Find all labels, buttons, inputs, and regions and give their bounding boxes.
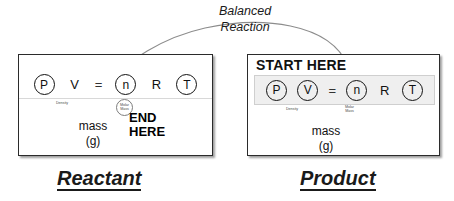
reactant-symbol-p: P xyxy=(34,74,55,95)
balanced-reaction-label-line1: Balanced xyxy=(219,4,271,20)
product-symbol-r: R xyxy=(378,84,392,97)
product-symbol-p: P xyxy=(266,80,287,101)
reactant-symbol-r: R xyxy=(149,78,163,91)
product-symbol-n: n xyxy=(346,80,367,101)
end-here-line2: HERE xyxy=(129,125,165,139)
product-caption: Product xyxy=(300,168,376,191)
reactant-molar-mass-line2: Mass xyxy=(120,107,129,111)
product-molar-mass-line2: Mass xyxy=(345,109,354,113)
reactant-symbol-t: T xyxy=(176,74,197,95)
end-here-marker: END HERE xyxy=(129,111,165,139)
reactant-symbol-n: n xyxy=(115,74,136,95)
balanced-reaction-label: Balanced Reaction xyxy=(219,4,271,35)
reactant-equation-row: P V = n R T xyxy=(19,71,212,99)
reactant-mass-line1: mass xyxy=(71,119,115,134)
reactant-symbol-equals: = xyxy=(95,78,103,91)
diagram-canvas: Balanced Reaction P V = n R T Density Mo… xyxy=(0,0,454,201)
reactant-mass-line2: (g) xyxy=(71,134,115,149)
product-mass-line1: mass xyxy=(304,124,348,139)
reactant-panel: P V = n R T Density Molar Mass mass (g) … xyxy=(18,54,213,156)
product-molar-mass-label: Molar Mass xyxy=(343,105,356,113)
product-mass-line2: (g) xyxy=(304,139,348,154)
reactant-symbol-v: V xyxy=(68,78,82,91)
product-symbol-equals: = xyxy=(329,84,337,97)
reactant-density-label: Density xyxy=(56,101,68,105)
product-symbol-t: T xyxy=(402,80,423,101)
product-mass-value: mass (g) xyxy=(304,124,348,153)
product-equation-row: P V = n R T xyxy=(254,75,435,105)
product-panel: START HERE P V = n R T Density Molar Mas… xyxy=(247,54,440,156)
product-density-label: Density xyxy=(286,107,298,111)
product-symbol-v: V xyxy=(297,80,318,101)
reactant-mass-value: mass (g) xyxy=(71,119,115,148)
start-here-label: START HERE xyxy=(256,57,346,73)
end-here-line1: END xyxy=(129,111,165,125)
reactant-caption: Reactant xyxy=(57,168,141,191)
balanced-reaction-label-line2: Reaction xyxy=(219,20,271,36)
